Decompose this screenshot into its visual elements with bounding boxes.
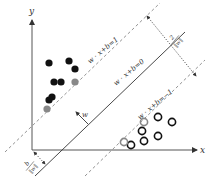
offset-numerator: b [23, 159, 31, 167]
negative-point [154, 132, 161, 139]
positive-support-vector [71, 78, 78, 85]
positive-point [45, 96, 52, 103]
decision-boundary-label: w · x+b=0 [112, 57, 146, 87]
positive-support-vector [43, 105, 50, 112]
positive-margin-label: w · x+b=1 [86, 35, 120, 65]
offset-arrow [34, 152, 45, 164]
negative-support-vector [120, 138, 127, 145]
positive-point [45, 59, 52, 66]
margin-numerator: 2 [167, 33, 176, 41]
y-axis-label: y [28, 6, 35, 16]
negative-point [154, 113, 161, 120]
positive-class-points [43, 57, 78, 112]
negative-point [140, 137, 147, 144]
negative-point [127, 141, 134, 148]
negative-point [168, 118, 175, 125]
offset-label: b ‖w‖ [20, 156, 40, 175]
normal-vector-label: w [82, 111, 88, 119]
margin-width-label: 2 ‖w‖ [165, 30, 185, 49]
positive-point [71, 65, 78, 72]
x-axis-label: x [200, 145, 205, 155]
decision-boundary-line [35, 32, 185, 176]
positive-point [65, 57, 72, 64]
positive-point [50, 78, 57, 85]
margin-width-arrow [147, 16, 196, 76]
svm-diagram: y x w · x+b=1 w · x+b=0 w · x+b=−1 w 2 ‖… [0, 0, 209, 188]
positive-point [57, 78, 64, 85]
negative-point [138, 127, 145, 134]
negative-class-points [120, 113, 175, 148]
positive-margin-line [5, 3, 160, 152]
